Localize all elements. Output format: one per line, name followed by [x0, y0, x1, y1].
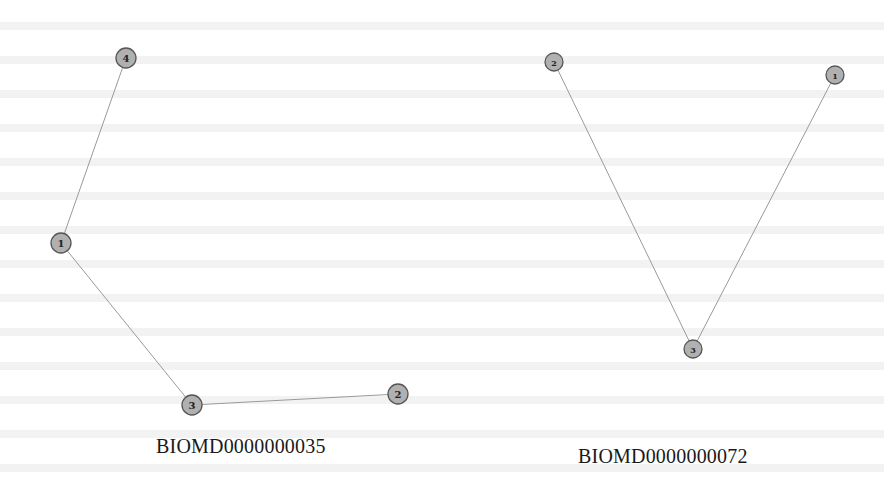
node-label: 2 [395, 389, 402, 400]
edge-2-3 [554, 62, 693, 349]
edge-4-1 [61, 58, 126, 243]
node-label: 4 [123, 53, 130, 64]
node-label: 1 [832, 71, 838, 81]
edge-1-3 [693, 75, 835, 349]
node-1: 1 [51, 233, 71, 253]
node-4: 4 [116, 48, 136, 68]
node-label: 2 [551, 58, 557, 68]
edge-1-3 [61, 243, 192, 405]
edge-3-2 [192, 394, 398, 405]
node-3: 3 [684, 340, 702, 358]
node-label: 3 [189, 400, 196, 411]
graph-canvas: 4132 213 [0, 0, 884, 494]
node-label: 1 [58, 238, 65, 249]
figure: 4132 213 BIOMD0000000035 BIOMD0000000072 [0, 0, 884, 494]
node-1: 1 [826, 66, 844, 84]
graph-biomd35: 4132 [51, 48, 408, 415]
caption-biomd35: BIOMD0000000035 [156, 435, 326, 458]
graph-biomd72: 213 [545, 53, 844, 358]
node-label: 3 [690, 345, 696, 355]
node-3: 3 [182, 395, 202, 415]
node-2: 2 [388, 384, 408, 404]
node-2: 2 [545, 53, 563, 71]
caption-biomd72: BIOMD0000000072 [578, 445, 748, 468]
